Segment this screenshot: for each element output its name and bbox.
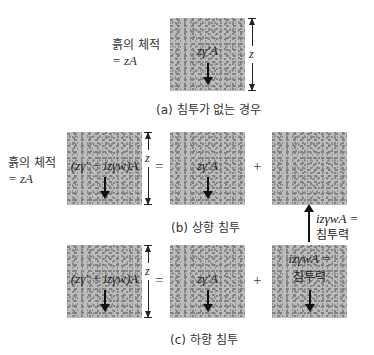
soil-element-b-seepage: [272, 132, 347, 205]
height-label-c: z: [145, 263, 150, 280]
seepage-force-text-c: 침투력: [272, 267, 347, 285]
soil-volume-formula: = zA: [112, 53, 160, 68]
height-label-a: z: [249, 46, 254, 63]
weight-label-a: zγ′A: [170, 43, 245, 59]
weight-arrow-icon: [104, 177, 106, 193]
plus-sign-c: +: [253, 272, 261, 289]
caption-a-text: (a) 침투가 없는 경우: [156, 103, 261, 117]
weight-label-b-buoyant: zγ′A: [170, 158, 245, 174]
soil-volume-label-a: 흙의 체적 = zA: [112, 38, 160, 68]
height-dimension-c: [148, 245, 149, 318]
weight-arrow-icon: [207, 290, 209, 306]
caption-b: (b) 상향 침투: [171, 218, 240, 236]
seepage-force-text: 침투력: [316, 227, 358, 243]
height-dimension-b: [148, 132, 149, 205]
soil-element-b-total: (zγ′ − izγw)A: [67, 132, 142, 205]
weight-label-b-total: (zγ′ − izγw)A: [67, 158, 142, 174]
weight-label-c-total: (zγ′ + izγw)A: [67, 271, 142, 287]
seepage-force-label-b: izγwA = 침투력: [316, 211, 358, 243]
seepage-force-down-arrow-icon: [309, 290, 311, 306]
soil-volume-label-b: 흙의 체적 = zA: [8, 156, 56, 186]
height-label-b: z: [145, 150, 150, 167]
soil-element-c-total: (zγ′ + izγw)A: [67, 245, 142, 318]
seepage-force-formula-c: izγwA =: [272, 251, 347, 267]
plus-sign-b: +: [253, 158, 261, 175]
soil-element-c-seepage: izγwA = 침투력: [272, 245, 347, 318]
caption-c-text: (c) 하향 침투: [170, 333, 238, 347]
caption-c: (c) 하향 침투: [170, 330, 238, 348]
weight-arrow-icon: [207, 177, 209, 193]
soil-element-b-buoyant: zγ′A: [170, 132, 245, 205]
soil-element-a: zγ′A: [170, 18, 245, 91]
soil-volume-formula: = zA: [8, 171, 56, 186]
seepage-force-formula: izγwA =: [316, 211, 358, 227]
weight-arrow-icon: [104, 290, 106, 306]
caption-b-text: (b) 상향 침투: [171, 221, 240, 235]
soil-volume-text: 흙의 체적: [112, 38, 160, 53]
seepage-force-up-arrow-icon: [308, 210, 310, 242]
weight-arrow-icon: [207, 63, 209, 79]
equals-sign-b: =: [155, 158, 163, 175]
seepage-force-text: 침투력: [293, 270, 326, 284]
caption-a: (a) 침투가 없는 경우: [156, 100, 261, 118]
soil-element-c-buoyant: zγ′A: [170, 245, 245, 318]
equals-sign-c: =: [155, 272, 163, 289]
soil-volume-text: 흙의 체적: [8, 156, 56, 171]
weight-label-c-buoyant: zγ′A: [170, 271, 245, 287]
